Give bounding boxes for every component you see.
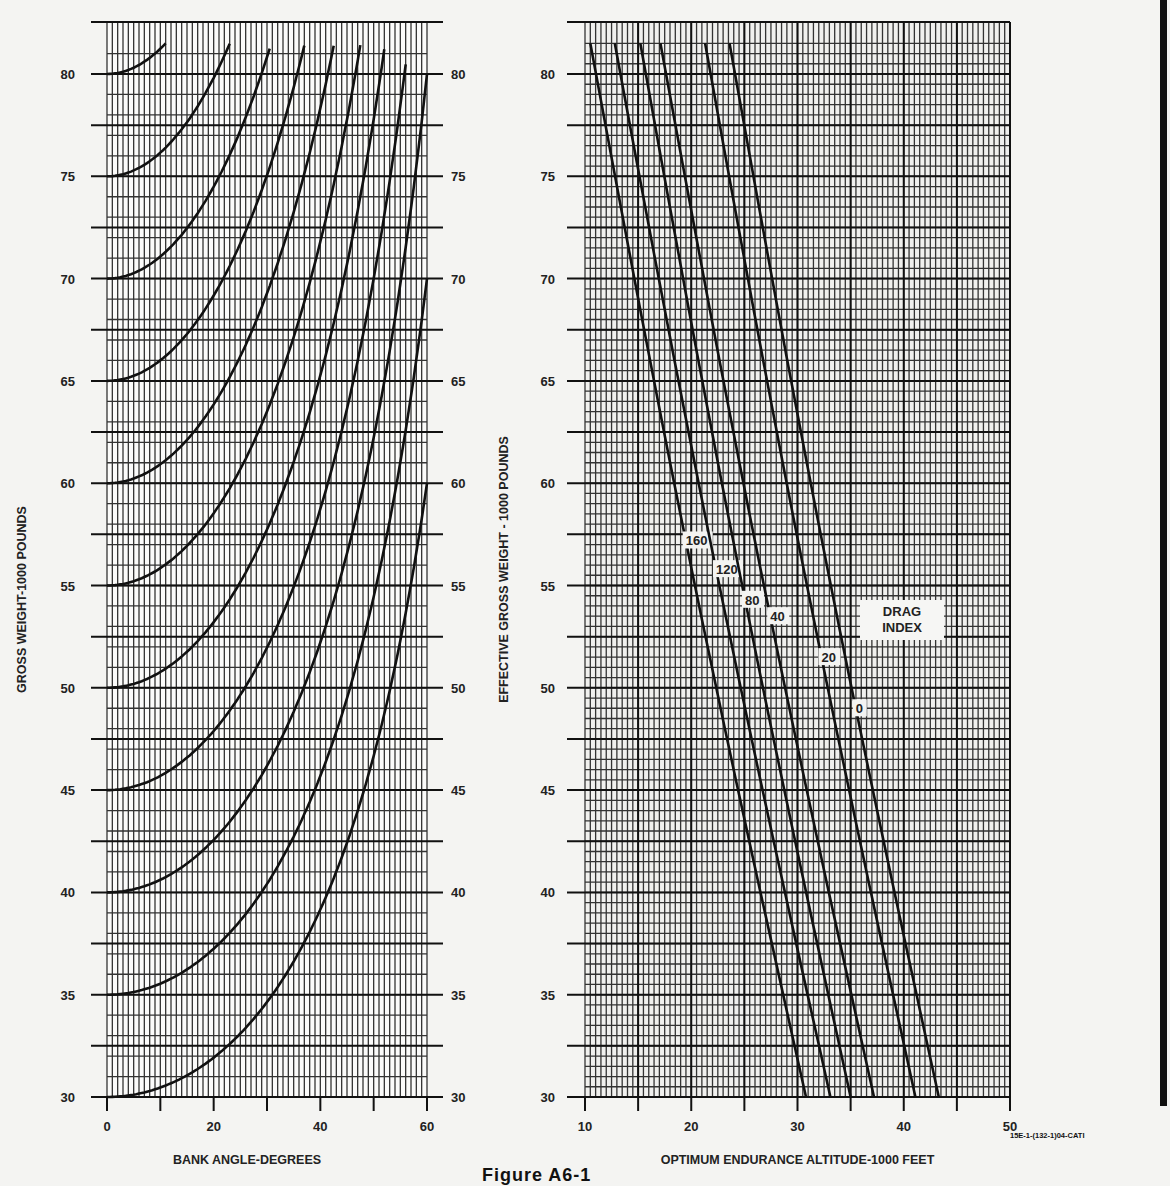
y-tick-label: 75	[541, 169, 555, 184]
document-id: 15E-1-(132-1)04-CATI	[1010, 1131, 1084, 1140]
y-tick-label: 70	[541, 272, 555, 287]
page-edge-bar	[1160, 0, 1167, 1106]
x-tick-label: 30	[790, 1119, 804, 1134]
y-tick-label-right: 35	[451, 988, 465, 1003]
y-tick-label: 45	[61, 783, 75, 798]
y-tick-label-right: 80	[451, 67, 465, 82]
drag-index-label: 120	[716, 562, 738, 577]
endurance-altitude-chart: 30354045505560657075801020304050OPTIMUM …	[497, 22, 1017, 1167]
x-tick-label: 60	[420, 1119, 434, 1134]
x-axis-title: OPTIMUM ENDURANCE ALTITUDE-1000 FEET	[661, 1153, 935, 1167]
drag-index-label: 160	[686, 533, 708, 548]
y-tick-label-right: 65	[451, 374, 465, 389]
y-tick-label: 35	[541, 988, 555, 1003]
y-tick-label-right: 30	[451, 1090, 465, 1105]
y-tick-label: 45	[541, 783, 555, 798]
drag-index-label: 20	[821, 650, 835, 665]
y-tick-label: 80	[541, 67, 555, 82]
y-tick-label: 50	[541, 681, 555, 696]
y-tick-label: 50	[61, 681, 75, 696]
y-tick-label-right: 45	[451, 783, 465, 798]
y-tick-label: 65	[61, 374, 75, 389]
y-tick-label: 40	[541, 885, 555, 900]
y-tick-label-right: 60	[451, 476, 465, 491]
y-tick-label: 30	[541, 1090, 555, 1105]
y-tick-label: 80	[61, 67, 75, 82]
figure-caption: Figure A6-1	[482, 1165, 591, 1186]
x-tick-label: 10	[578, 1119, 592, 1134]
y-tick-label: 65	[541, 374, 555, 389]
x-tick-label: 0	[103, 1119, 110, 1134]
y-tick-label: 40	[61, 885, 75, 900]
y-tick-label-right: 50	[451, 681, 465, 696]
y-tick-label: 55	[61, 579, 75, 594]
x-tick-label: 20	[206, 1119, 220, 1134]
y-tick-label-right: 55	[451, 579, 465, 594]
y-tick-label-right: 40	[451, 885, 465, 900]
y-tick-label-right: 75	[451, 169, 465, 184]
y-axis-title: GROSS WEIGHT-1000 POUNDS	[15, 506, 29, 693]
y-tick-label: 60	[61, 476, 75, 491]
y-tick-label: 70	[61, 272, 75, 287]
y-tick-label: 30	[61, 1090, 75, 1105]
y-tick-label: 60	[541, 476, 555, 491]
y-tick-label: 35	[61, 988, 75, 1003]
drag-index-label: 80	[745, 593, 759, 608]
x-axis-title: BANK ANGLE-DEGREES	[173, 1153, 321, 1167]
drag-index-label: 0	[856, 701, 863, 716]
legend-title: INDEX	[882, 620, 922, 635]
bank-angle-chart: 3030353540404545505055556060656570707575…	[15, 22, 465, 1167]
drag-index-label: 40	[770, 609, 784, 624]
x-tick-label: 40	[897, 1119, 911, 1134]
x-tick-label: 20	[684, 1119, 698, 1134]
x-tick-label: 40	[313, 1119, 327, 1134]
y-tick-label-right: 70	[451, 272, 465, 287]
y-tick-label: 75	[61, 169, 75, 184]
y-tick-label: 55	[541, 579, 555, 594]
legend-title: DRAG	[883, 604, 921, 619]
y-axis-title: EFFECTIVE GROSS WEIGHT - 1000 POUNDS	[497, 436, 511, 703]
